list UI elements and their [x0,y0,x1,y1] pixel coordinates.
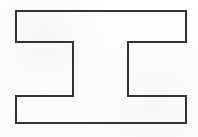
shape-outline-svg [0,0,198,137]
drawing-canvas [0,0,198,137]
rotated-h-polygon [16,11,186,123]
